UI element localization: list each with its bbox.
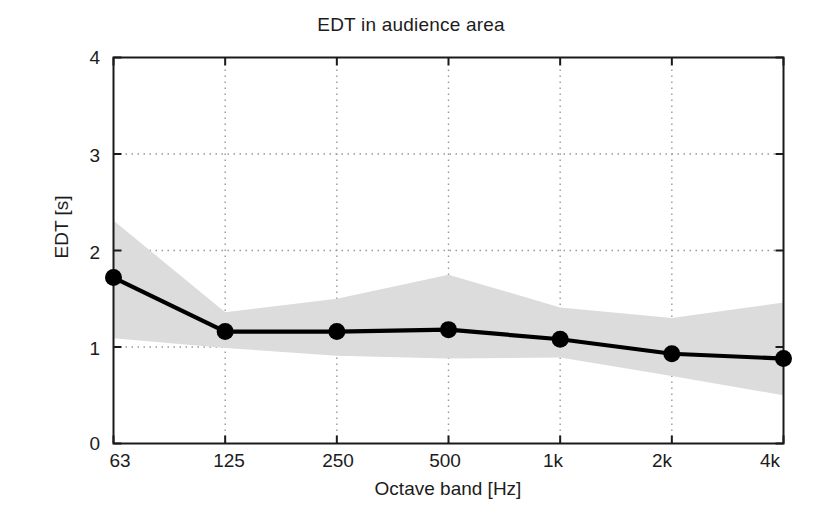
plot-canvas <box>0 0 822 516</box>
spread-band <box>114 221 784 396</box>
chart-figure: EDT in audience area EDT [s] Octave band… <box>0 0 822 516</box>
gridlines <box>114 58 784 444</box>
